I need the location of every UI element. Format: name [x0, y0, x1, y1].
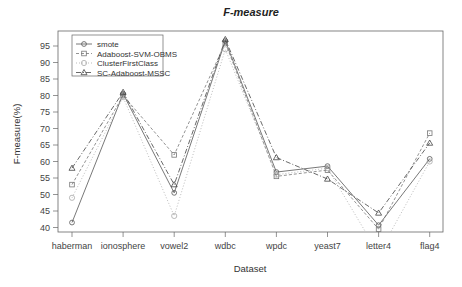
triangle-marker-icon	[273, 155, 279, 160]
y-tick-label: 40	[40, 223, 50, 233]
circle-marker-icon	[70, 220, 75, 225]
legend-entry: ClusterFirstClass	[97, 59, 158, 68]
diamond-marker-icon	[376, 251, 381, 256]
x-tick-label: yeast7	[314, 241, 341, 251]
y-tick-label: 95	[40, 41, 50, 51]
series-clusterfirstclass	[69, 47, 432, 257]
y-tick-label: 90	[40, 58, 50, 68]
x-tick-label: haberman	[52, 241, 93, 251]
y-tick-label: 75	[40, 107, 50, 117]
y-tick-label: 85	[40, 74, 50, 84]
diamond-marker-icon	[223, 47, 228, 52]
y-tick-label: 50	[40, 190, 50, 200]
x-tick-label: wdbc	[214, 241, 237, 251]
triangle-marker-icon	[427, 140, 433, 145]
y-tick-label: 60	[40, 157, 50, 167]
x-tick-label: ionosphere	[101, 241, 146, 251]
y-tick-label: 55	[40, 173, 50, 183]
x-tick-label: wpdc	[265, 241, 288, 251]
x-tick-label: flag4	[420, 241, 440, 251]
y-tick-label: 80	[40, 91, 50, 101]
y-tick-label: 70	[40, 124, 50, 134]
y-axis: 404550556065707580859095	[40, 41, 58, 233]
triangle-marker-icon	[376, 210, 382, 215]
x-axis: habermanionospherevowel2wdbcwpdcyeast7le…	[52, 232, 440, 251]
legend-entry: smote	[97, 40, 119, 49]
y-axis-label: F-measure(%)	[11, 104, 22, 165]
diamond-marker-icon	[172, 213, 177, 218]
x-tick-label: vowel2	[160, 241, 188, 251]
f-measure-chart: F-measure 404550556065707580859095 haber…	[0, 0, 462, 287]
x-tick-label: letter4	[366, 241, 391, 251]
legend-entry: Adaboost-SVM-OBMS	[97, 50, 177, 59]
legend-entry: SC-Adaboost-MSSC	[97, 69, 171, 78]
x-axis-label: Dataset	[234, 263, 267, 274]
chart-title: F-measure	[223, 6, 279, 18]
legend: smoteAdaboost-SVM-OBMSClusterFirstClassS…	[72, 35, 177, 78]
y-tick-label: 45	[40, 206, 50, 216]
y-tick-label: 65	[40, 140, 50, 150]
